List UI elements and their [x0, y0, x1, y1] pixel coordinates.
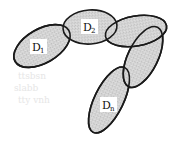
ghost-text: ttsbsn slabb tty vnh: [14, 71, 50, 105]
svg-text:1: 1: [40, 47, 44, 55]
svg-text:slabb: slabb: [14, 83, 39, 93]
label-d1: D 1: [30, 39, 47, 55]
svg-text:ttsbsn: ttsbsn: [18, 71, 46, 81]
label-d2: D 2: [81, 19, 98, 35]
domain-chain-diagram: ttsbsn slabb tty vnh D 1 D 2 D n: [0, 0, 177, 144]
svg-text:n: n: [110, 105, 115, 113]
svg-text:2: 2: [91, 27, 95, 35]
svg-text:tty vnh: tty vnh: [18, 95, 50, 105]
label-dn: D n: [100, 97, 117, 113]
